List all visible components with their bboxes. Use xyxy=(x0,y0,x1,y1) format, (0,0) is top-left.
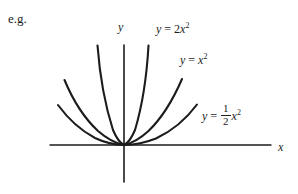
x-axis-label: x xyxy=(278,141,283,153)
plot-canvas xyxy=(0,0,298,194)
curve-label-2x2-equals: = xyxy=(164,23,171,35)
parabola-family-figure: e.g. y x y = 2 x 2 y = x 2 y = 1 2 x 2 xyxy=(0,0,298,194)
curve-halfx2-right-branch xyxy=(124,105,197,146)
fraction-denominator: 2 xyxy=(221,116,231,128)
curve-label-halfx2-equals: = xyxy=(210,110,217,122)
curve-label-halfx2-fraction: 1 2 xyxy=(221,103,231,127)
curve-label-x2: y = x 2 xyxy=(180,54,207,66)
y-axis-label: y xyxy=(118,21,123,33)
curve-label-x2-equals: = xyxy=(188,54,195,66)
curve-2x2-left-branch xyxy=(98,46,125,146)
curve-label-2x2: y = 2 x 2 xyxy=(156,23,189,35)
fraction-numerator: 1 xyxy=(221,103,231,115)
curve-label-halfx2: y = 1 2 x 2 xyxy=(202,104,241,128)
curve-label-halfx2-lhs: y xyxy=(202,110,207,122)
curve-2x2-right-branch xyxy=(124,46,149,146)
curve-label-2x2-lhs: y xyxy=(156,23,161,35)
curve-label-x2-lhs: y xyxy=(180,54,185,66)
example-prefix-label: e.g. xyxy=(8,12,27,25)
